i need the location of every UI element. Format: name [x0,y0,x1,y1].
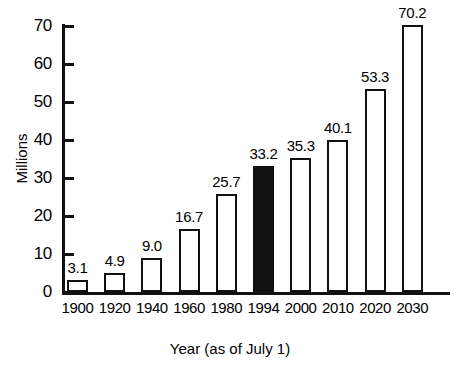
y-axis-tick [65,139,74,142]
bar-value-label: 9.0 [129,238,175,254]
bar-2020 [365,89,386,292]
y-axis-tick [65,25,74,28]
bar-value-label: 70.2 [389,5,435,21]
y-axis-tick [65,101,74,104]
y-axis-tick [65,63,74,66]
y-axis-tick-label: 20 [18,207,52,224]
x-axis-title: Year (as of July 1) [0,340,460,357]
x-axis-line [62,292,450,295]
y-axis-tick-label: 40 [18,131,52,148]
y-axis-tick-label: 30 [18,169,52,186]
bar-1920 [104,273,125,292]
y-axis-tick-label: 10 [18,245,52,262]
bar-value-label: 53.3 [352,69,398,85]
bar-value-label: 4.9 [92,253,138,269]
y-axis-tick-label: 50 [18,93,52,110]
bar-1960 [179,229,200,292]
bar-value-label: 25.7 [203,174,249,190]
y-axis-tick-label: 70 [18,17,52,34]
y-axis-title: Millions [13,114,30,204]
bar-1940 [141,258,162,292]
bar-value-label: 40.1 [315,120,361,136]
y-axis-tick [65,177,74,180]
bar-2030 [402,25,423,292]
y-axis-tick [65,253,74,256]
bar-2000 [290,158,311,292]
bar-2010 [327,140,348,292]
bar-chart: Millions Year (as of July 1) 01020304050… [0,0,460,372]
y-axis-tick-label: 60 [18,55,52,72]
bar-value-label: 35.3 [278,138,324,154]
bar-1994 [253,166,274,292]
y-axis-tick [65,215,74,218]
y-axis-tick-label: 0 [18,283,52,300]
bar-1980 [216,194,237,292]
x-axis-tick-label: 2030 [390,300,434,316]
bar-1900 [67,280,88,292]
bar-value-label: 16.7 [166,209,212,225]
